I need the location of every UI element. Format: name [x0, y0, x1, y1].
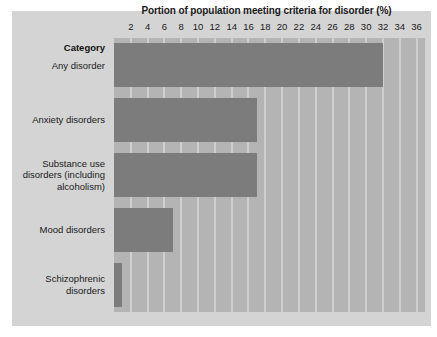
category-label-line: Substance use [0, 158, 105, 170]
chart-figure: Portion of population meeting criteria f… [0, 0, 437, 337]
category-label-line: Anxiety disorders [0, 114, 105, 126]
bar-row [114, 98, 425, 142]
category-label: Any disorder [0, 60, 105, 72]
bar-row [114, 43, 425, 87]
bar [114, 153, 257, 197]
category-label-line: disorders [0, 285, 105, 297]
bar-row [114, 208, 425, 252]
bar [114, 208, 173, 252]
bar-row [114, 263, 425, 307]
bar-row [114, 153, 425, 197]
bar [114, 98, 257, 142]
category-label: Anxiety disorders [0, 114, 105, 126]
x-tick-label-36: 36 [407, 21, 427, 32]
x-axis-tick-labels: 24681012141618202224262830323436 [102, 21, 426, 35]
category-label-line: Schizophrenic [0, 273, 105, 285]
category-label-line: Any disorder [0, 60, 105, 72]
category-label-line: alcoholism) [0, 181, 105, 193]
category-label: Schizophrenicdisorders [0, 273, 105, 296]
category-label-line: disorders (including [0, 169, 105, 181]
chart-title: Portion of population meeting criteria f… [114, 5, 419, 16]
category-label-line: Mood disorders [0, 224, 105, 236]
bar [114, 263, 122, 307]
category-label: Substance usedisorders (includingalcohol… [0, 158, 105, 193]
bar [114, 43, 383, 87]
category-label: Mood disorders [0, 224, 105, 236]
plot-area [114, 38, 425, 312]
category-column-header: Category [0, 42, 105, 53]
